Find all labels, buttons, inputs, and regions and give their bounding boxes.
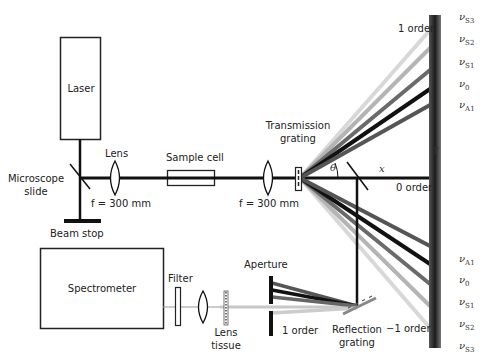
optical-setup-diagram: Laser Lens Sample cell Microscope slide … bbox=[0, 0, 491, 361]
lower-label-s1: νS1 bbox=[459, 296, 474, 310]
focal-length-1-label: f = 300 mm bbox=[91, 198, 151, 210]
x-label: x bbox=[379, 163, 385, 174]
plus-one-order-beams bbox=[300, 30, 430, 178]
lower-label-s2: νS2 bbox=[459, 318, 474, 332]
upper-label-s3: νS3 bbox=[459, 11, 474, 25]
zero-order-label: 0 order bbox=[396, 182, 432, 194]
aperture-order-label: 1 order bbox=[282, 325, 318, 337]
laser-label: Laser bbox=[62, 83, 100, 95]
filter-label: Filter bbox=[168, 273, 193, 285]
upper-label-0: ν0 bbox=[459, 78, 470, 92]
upper-label-s2: νS2 bbox=[459, 33, 474, 47]
lower-label-a1: νA1 bbox=[459, 253, 475, 267]
reflection-grating-label-line1: Reflection bbox=[330, 324, 384, 336]
microscope-slide-label-line2: slide bbox=[0, 186, 72, 198]
minus-one-order-label: −1 order bbox=[386, 323, 431, 335]
theta-label: θ bbox=[330, 162, 336, 173]
reflection-grating-label-line2: grating bbox=[330, 337, 384, 349]
lens-2 bbox=[264, 161, 273, 195]
microscope-slide-label-line1: Microscope bbox=[0, 173, 72, 185]
lower-label-s3: νS3 bbox=[459, 340, 474, 354]
lens-1-label: Lens bbox=[105, 148, 128, 160]
lens-tissue-label-line1: Lens bbox=[206, 327, 246, 339]
plus-one-order-label: 1 order bbox=[398, 23, 434, 35]
lower-label-0: ν0 bbox=[459, 274, 470, 288]
lens-1 bbox=[111, 161, 120, 195]
y-label: y bbox=[433, 143, 439, 154]
focal-length-2-label: f = 300 mm bbox=[239, 198, 299, 210]
beam-stop-label: Beam stop bbox=[50, 228, 104, 240]
lens-tissue-label-line2: tissue bbox=[206, 340, 246, 352]
transmission-grating-label-line1: Transmission bbox=[258, 120, 338, 132]
aperture-label: Aperture bbox=[244, 259, 288, 271]
lens-tissue bbox=[224, 291, 228, 325]
spectrometer-label: Spectrometer bbox=[41, 283, 163, 295]
transmission-grating-label-line2: grating bbox=[258, 133, 338, 145]
sample-cell-label: Sample cell bbox=[166, 152, 224, 164]
transmission-grating bbox=[296, 168, 302, 191]
filter bbox=[176, 288, 181, 326]
upper-label-a1: νA1 bbox=[459, 99, 475, 113]
lens-3 bbox=[199, 291, 208, 323]
upper-label-s1: νS1 bbox=[459, 56, 474, 70]
